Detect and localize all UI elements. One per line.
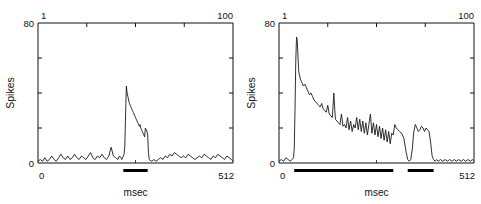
y-axis-max-label: 80 (264, 18, 275, 29)
y-axis-max-label: 80 (23, 18, 34, 29)
x-axis-title: msec (365, 187, 389, 198)
stimulus-bar-0 (123, 169, 147, 172)
top-axis-right-label: 100 (458, 10, 474, 21)
psth-panel-right: 11008000512msecSpikes (241, 0, 481, 204)
axis-frame (38, 23, 233, 163)
top-axis-right-label: 100 (217, 10, 233, 21)
x-axis-min-label: 0 (39, 170, 44, 181)
y-axis-min-label: 0 (270, 158, 275, 169)
y-axis-title: Spikes (4, 77, 16, 109)
spike-histogram-figure: 11008000512msecSpikes11008000512msecSpik… (0, 0, 481, 204)
spike-trace (279, 37, 474, 161)
y-axis-min-label: 0 (29, 158, 34, 169)
x-axis-max-label: 512 (459, 170, 475, 181)
top-axis-left-label: 1 (282, 10, 287, 21)
x-axis-min-label: 0 (280, 170, 285, 181)
x-axis-max-label: 512 (218, 170, 234, 181)
stimulus-bar-0 (294, 169, 393, 172)
spike-trace (38, 86, 233, 161)
stimulus-bar-1 (408, 169, 434, 172)
top-axis-left-label: 1 (41, 10, 46, 21)
x-axis-title: msec (124, 187, 148, 198)
y-axis-title: Spikes (245, 77, 257, 109)
psth-panel-left: 11008000512msecSpikes (0, 0, 240, 204)
